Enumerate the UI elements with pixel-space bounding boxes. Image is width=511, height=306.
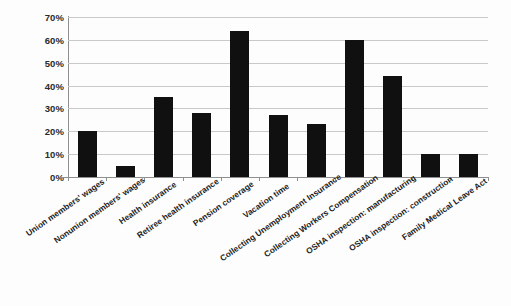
- bar: [383, 76, 402, 177]
- y-axis-tick-label: 10%: [18, 149, 64, 160]
- x-axis-category-labels: Union members' wagesNonunion members' wa…: [0, 177, 511, 306]
- bar: [269, 115, 288, 177]
- plot-area: [68, 17, 488, 177]
- gridline: [68, 17, 488, 18]
- gridline: [68, 63, 488, 64]
- gridline: [68, 40, 488, 41]
- y-axis-tick-labels: 70%60%50%40%30%20%10%0%: [12, 17, 64, 177]
- chart-screenshot: 70%60%50%40%30%20%10%0% Union members' w…: [0, 0, 511, 306]
- gridline: [68, 86, 488, 87]
- gridline: [68, 108, 488, 109]
- y-axis-tick-label: 70%: [18, 12, 64, 23]
- y-axis-tick-label: 20%: [18, 126, 64, 137]
- bar: [345, 40, 364, 177]
- y-axis-tick-label: 30%: [18, 103, 64, 114]
- y-axis-tick-label: 40%: [18, 80, 64, 91]
- bar: [192, 113, 211, 177]
- bar: [230, 31, 249, 177]
- bar: [307, 124, 326, 177]
- bar: [78, 131, 97, 177]
- bar: [421, 154, 440, 177]
- bar: [116, 166, 135, 177]
- y-axis-tick-label: 50%: [18, 57, 64, 68]
- bar: [154, 97, 173, 177]
- y-axis-tick-label: 60%: [18, 34, 64, 45]
- bar: [459, 154, 478, 177]
